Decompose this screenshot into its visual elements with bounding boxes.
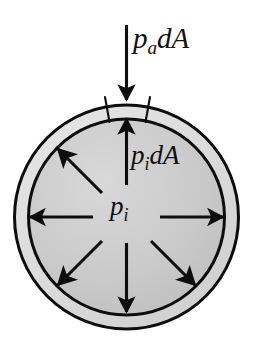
label-pida-base: p [131,140,145,170]
label-internal-pressure-force: pidA [131,142,179,174]
label-pi-subscript: i [124,205,129,225]
label-pida-suffix: dA [149,140,179,170]
diagram-canvas [0,0,259,360]
label-pi-base: p [110,191,124,221]
label-pa-suffix: dA [157,22,189,54]
pressure-diagram-figure: padA pidA pi [0,0,259,360]
label-internal-pressure: pi [110,193,128,225]
label-ambient-pressure-force: padA [133,24,189,57]
label-pa-base: p [133,22,148,54]
label-pa-subscript: a [148,37,158,58]
